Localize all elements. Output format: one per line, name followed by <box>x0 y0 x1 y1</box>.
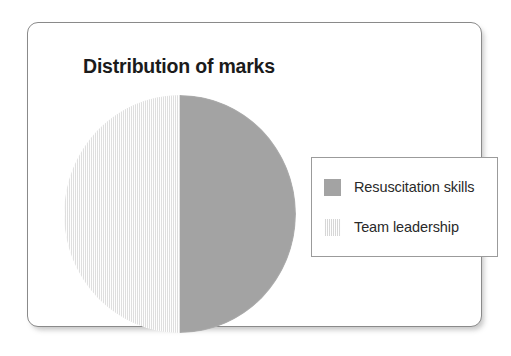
legend-swatch-icon-resuscitation-skills <box>324 179 341 196</box>
page-title: Distribution of marks <box>83 55 275 78</box>
legend-item-team-leadership[interactable]: Team leadership <box>324 217 459 237</box>
chart-card: Distribution of marks Resuscitation skil… <box>27 22 482 327</box>
legend-label-resuscitation-skills: Resuscitation skills <box>354 179 475 195</box>
legend-item-resuscitation-skills[interactable]: Resuscitation skills <box>324 177 475 197</box>
legend-label-team-leadership: Team leadership <box>354 219 459 235</box>
pie-chart <box>64 95 296 333</box>
legend-swatch-icon-team-leadership <box>324 219 341 236</box>
chart-legend: Resuscitation skills Team leadership <box>311 157 498 257</box>
pie-graphic <box>64 95 296 333</box>
